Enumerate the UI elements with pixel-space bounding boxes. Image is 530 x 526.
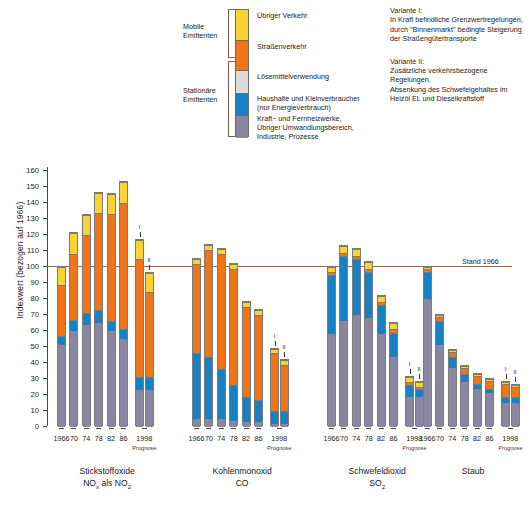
bar-Stickstoffoxide-86[interactable] (119, 181, 128, 426)
group-label-line1-Staub: Staub (462, 466, 484, 478)
x-label-Schwefeldioxid-82: 82 (377, 434, 385, 443)
bar-segment-kraftwerke (461, 382, 468, 427)
x-tick-2-5 (391, 428, 396, 429)
bar-Kohlenmonoxid-1998-I[interactable] (270, 348, 279, 426)
bar-Schwefeldioxid-1998-I[interactable] (405, 376, 414, 426)
x-tick-3-4 (475, 428, 480, 429)
bar-Schwefeldioxid-86[interactable] (389, 322, 398, 426)
bar-Staub-86[interactable] (485, 378, 494, 426)
bar-segment-kraftwerke (390, 357, 397, 427)
bar-Stickstoffoxide-74[interactable] (82, 214, 91, 426)
baseline-1966 (47, 266, 512, 267)
bar-segment-uebriger_verkehr (328, 267, 335, 272)
variant-stem-Staub-I (506, 374, 507, 379)
x-tick-2-1 (341, 428, 346, 429)
bar-Kohlenmonoxid-82[interactable] (242, 301, 251, 426)
x-label-Stickstoffoxide-70: 70 (70, 434, 78, 443)
x-tick-3-2 (450, 428, 455, 429)
bar-Schwefeldioxid-74[interactable] (352, 248, 361, 426)
bar-Kohlenmonoxid-1998-II[interactable] (280, 359, 289, 426)
y-tick-label-140: 140 (17, 198, 39, 207)
bar-Staub-1966[interactable] (423, 266, 432, 426)
x-tick-0-5 (121, 428, 126, 429)
prognose-note-Stickstoffoxide: Prognose (132, 445, 156, 451)
bar-segment-haushalte (502, 397, 509, 403)
bar-segment-haushalte (120, 329, 127, 339)
y-tick-mark-160 (43, 170, 47, 171)
bar-segment-kraftwerke (255, 422, 262, 427)
x-label-Stickstoffoxide-86: 86 (120, 434, 128, 443)
bar-Kohlenmonoxid-70[interactable] (204, 244, 213, 426)
bar-segment-kraftwerke (230, 421, 237, 427)
bar-segment-haushalte (243, 397, 250, 423)
group-label-Kohlenmonoxid: KohlenmonoxidCO (212, 466, 271, 489)
y-tick-label-120: 120 (17, 230, 39, 239)
bar-Schwefeldioxid-1966[interactable] (327, 266, 336, 426)
x-tick-2-2 (354, 428, 359, 429)
variant-marker-Kohlenmonoxid-I: I (274, 333, 276, 339)
bar-Stickstoffoxide-1998-I[interactable] (135, 239, 144, 426)
bar-Staub-78[interactable] (460, 365, 469, 426)
bar-segment-strassenverkehr (474, 376, 481, 384)
bar-Kohlenmonoxid-78[interactable] (229, 263, 238, 426)
bar-Stickstoffoxide-78[interactable] (94, 192, 103, 426)
bar-segment-haushalte (406, 385, 413, 396)
bar-Kohlenmonoxid-1966[interactable] (192, 258, 201, 426)
y-tick-mark-30 (43, 378, 47, 379)
bar-Stickstoffoxide-70[interactable] (69, 232, 78, 426)
y-tick-mark-20 (43, 394, 47, 395)
bar-Stickstoffoxide-1966[interactable] (57, 266, 66, 426)
bar-segment-kraftwerke (281, 424, 288, 427)
bar-segment-strassenverkehr (255, 315, 262, 400)
bar-Schwefeldioxid-82[interactable] (377, 295, 386, 426)
x-tick-1-4 (244, 428, 249, 429)
bar-Kohlenmonoxid-86[interactable] (254, 309, 263, 426)
bar-Staub-1998-I[interactable] (501, 381, 510, 426)
bar-segment-strassenverkehr (146, 292, 153, 378)
bar-segment-kraftwerke (95, 323, 102, 427)
bar-segment-strassenverkehr (70, 254, 77, 320)
bar-segment-haushalte (136, 377, 143, 390)
y-tick-label-10: 10 (17, 406, 39, 415)
prognose-note-Schwefeldioxid: Prognose (402, 445, 426, 451)
bar-segment-kraftwerke (70, 331, 77, 427)
x-label-Kohlenmonoxid-prognose: 1998 (271, 434, 287, 443)
bar-segment-kraftwerke (193, 419, 200, 427)
bar-segment-strassenverkehr (390, 329, 397, 332)
x-tick-3-0 (425, 428, 430, 429)
bar-segment-uebriger_verkehr (406, 377, 413, 382)
bar-segment-strassenverkehr (120, 203, 127, 329)
bar-segment-uebriger_verkehr (243, 302, 250, 307)
y-axis-title: Indexwert (bezogen auf 1966) (15, 145, 25, 375)
bar-segment-uebriger_verkehr (365, 262, 372, 268)
bar-Schwefeldioxid-78[interactable] (364, 261, 373, 426)
bar-segment-strassenverkehr (436, 317, 443, 322)
x-tick-2-4 (379, 428, 384, 429)
bar-Kohlenmonoxid-74[interactable] (217, 248, 226, 426)
bar-segment-uebriger_verkehr (108, 194, 115, 214)
bar-segment-uebriger_verkehr (502, 382, 509, 384)
bar-Staub-1998-II[interactable] (511, 384, 520, 426)
x-label-Schwefeldioxid-78: 78 (365, 434, 373, 443)
bar-Schwefeldioxid-70[interactable] (339, 245, 348, 426)
bar-Staub-74[interactable] (448, 349, 457, 426)
bar-segment-uebriger_verkehr (474, 374, 481, 376)
bar-Stickstoffoxide-1998-II[interactable] (145, 272, 154, 426)
variant-marker-Schwefeldioxid-II: II (418, 366, 421, 372)
x-tick-0-4 (109, 428, 114, 429)
bar-segment-strassenverkehr (281, 365, 288, 411)
bar-segment-kraftwerke (406, 397, 413, 427)
bar-Stickstoffoxide-82[interactable] (107, 193, 116, 426)
x-tick-0-2 (84, 428, 89, 429)
x-label-Kohlenmonoxid-82: 82 (242, 434, 250, 443)
group-label-line1-Kohlenmonoxid: Kohlenmonoxid (212, 466, 271, 478)
baseline-label: Stand 1966 (462, 257, 499, 266)
bar-segment-haushalte (512, 397, 519, 403)
x-tick-0-3 (96, 428, 101, 429)
variant-stem-Stickstoffoxide-II (149, 265, 150, 270)
bar-segment-uebriger_verkehr (83, 215, 90, 235)
x-label-Stickstoffoxide-74: 74 (82, 434, 90, 443)
x-tick-3-3 (462, 428, 467, 429)
bar-Staub-82[interactable] (473, 373, 482, 426)
bar-Staub-70[interactable] (435, 314, 444, 426)
